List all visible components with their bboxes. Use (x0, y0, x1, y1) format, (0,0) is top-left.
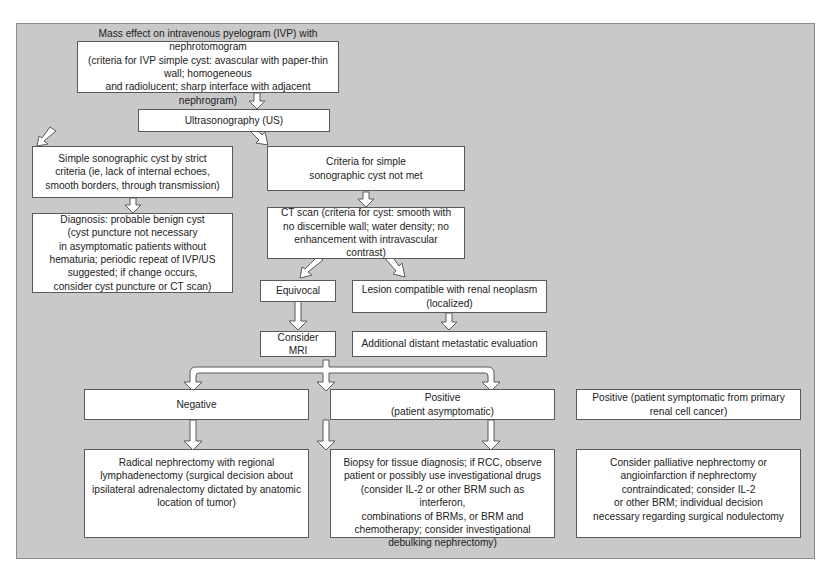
node-positive-asymptomatic: Positive (patient asymptomatic) (330, 389, 555, 420)
node-ct-scan: CT scan (criteria for cyst: smooth with … (267, 207, 465, 259)
node-text: Positive (patient symptomatic from prima… (592, 391, 784, 418)
node-positive-symptomatic: Positive (patient symptomatic from prima… (576, 389, 801, 420)
node-text: Additional distant metastatic evaluation (361, 337, 537, 350)
node-text: Simple sonographic cyst by strict criter… (45, 152, 219, 192)
node-simple-cyst: Simple sonographic cyst by strict criter… (32, 146, 233, 198)
node-criteria-not-met: Criteria for simple sonographic cyst not… (267, 146, 465, 191)
node-text: Criteria for simple sonographic cyst not… (309, 155, 422, 182)
node-text: Positive (patient asymptomatic) (391, 391, 494, 418)
node-consider-mri: Consider MRI (260, 331, 336, 357)
node-ultrasonography: Ultrasonography (US) (138, 109, 330, 132)
node-text: Lesion compatible with renal neoplasm (l… (362, 283, 538, 310)
node-biopsy: Biopsy for tissue diagnosis; if RCC, obs… (330, 449, 555, 538)
node-radical-nephrectomy: Radical nephrectomy with regional lympha… (84, 449, 309, 538)
node-palliative: Consider palliative nephrectomy or angio… (576, 449, 801, 538)
node-text: Equivocal (276, 284, 320, 297)
node-lesion-neoplasm: Lesion compatible with renal neoplasm (l… (352, 280, 547, 313)
node-text: Ultrasonography (US) (185, 114, 284, 127)
node-ivp: Mass effect on intravenous pyelogram (IV… (77, 41, 339, 93)
node-text: Radical nephrectomy with regional lympha… (92, 456, 301, 510)
node-text: Consider MRI (267, 331, 329, 358)
node-text: CT scan (criteria for cyst: smooth with … (274, 206, 458, 260)
node-equivocal: Equivocal (260, 280, 336, 302)
node-metastatic-evaluation: Additional distant metastatic evaluation (352, 331, 547, 357)
node-diagnosis-benign: Diagnosis: probable benign cyst (cyst pu… (32, 213, 233, 293)
node-negative: Negative (84, 389, 309, 420)
node-text: Consider palliative nephrectomy or angio… (593, 456, 784, 523)
node-text: Diagnosis: probable benign cyst (cyst pu… (50, 213, 216, 293)
node-text: Biopsy for tissue diagnosis; if RCC, obs… (337, 456, 548, 550)
node-text: Negative (176, 398, 216, 411)
node-text: Mass effect on intravenous pyelogram (IV… (84, 27, 332, 107)
